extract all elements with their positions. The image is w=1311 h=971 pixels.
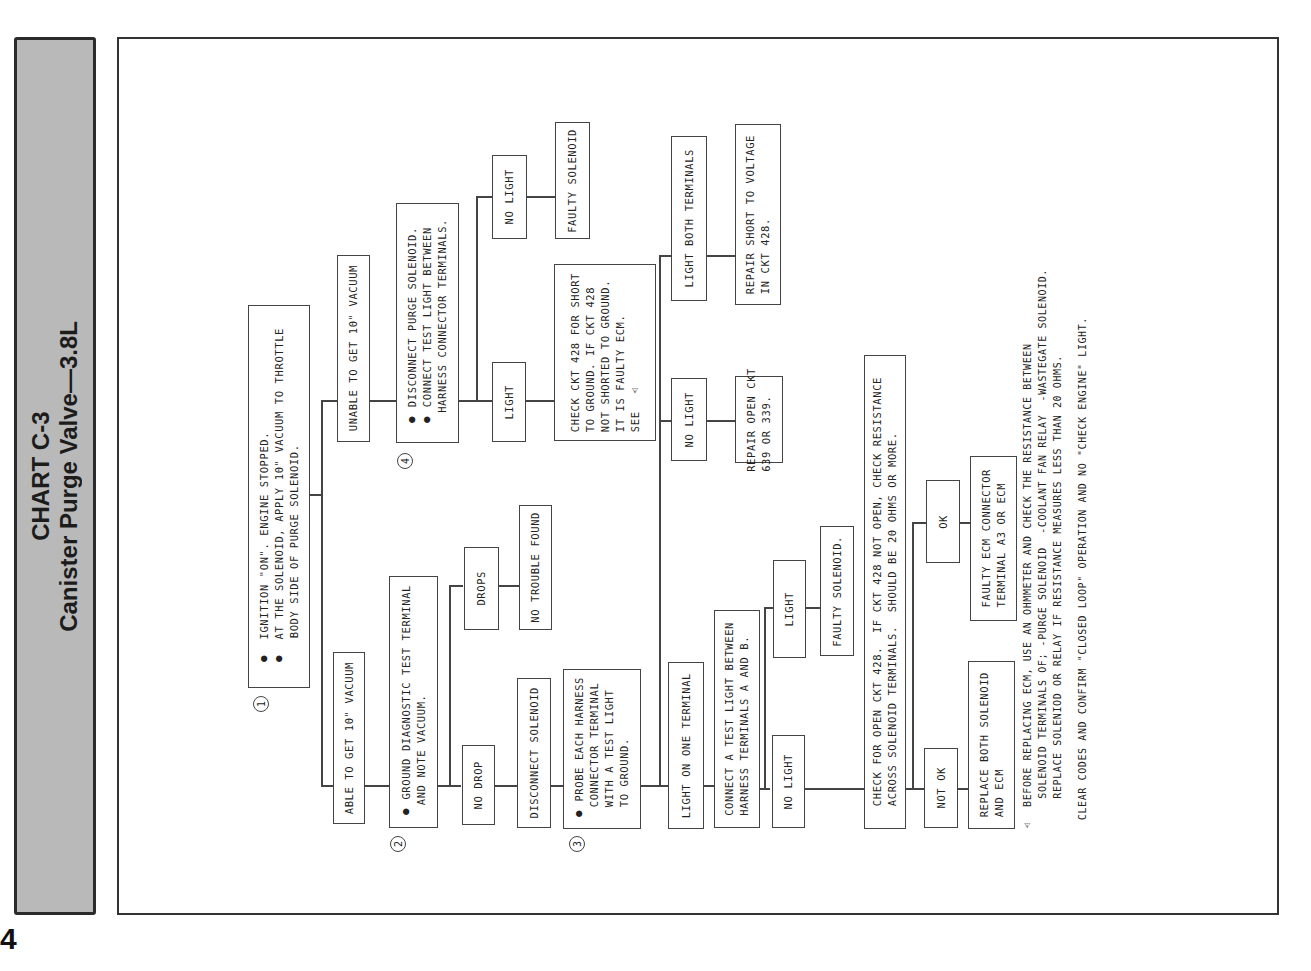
connector: [526, 400, 554, 402]
connector: [707, 420, 735, 422]
light-one-terminal-box: LIGHT ON ONE TERMINAL: [668, 662, 704, 829]
connector: [321, 400, 337, 402]
step-number-3: 3: [569, 836, 585, 852]
connector: [805, 788, 865, 790]
connector: [321, 400, 323, 785]
chart-title-panel: CHART C-3 Canister Purge Valve—3.8L: [14, 37, 96, 915]
connector: [449, 785, 461, 787]
connector: [958, 788, 968, 790]
connector: [659, 255, 671, 257]
connector: [551, 785, 563, 787]
connector: [476, 400, 492, 402]
warning-note: ⚠ BEFORE REPLACING ECM, USE AN OHMMETER …: [1020, 190, 1070, 832]
connector: [527, 196, 555, 198]
connector: [704, 785, 714, 787]
faulty-ecm-box: FAULTY ECM CONNECTOR TERMINAL A3 OR ECM: [970, 456, 1017, 621]
step-1-text: ● IGNITION "ON". ENGINE STOPPED. ● AT TH…: [257, 328, 302, 666]
step-4-box: ● DISCONNECT PURGE SOLENOID. ● CONNECT T…: [396, 203, 459, 443]
unable-vacuum-box: UNABLE TO GET 10" VACUUM: [337, 255, 370, 442]
connector: [912, 522, 914, 788]
no-trouble-found-box: NO TROUBLE FOUND: [519, 505, 552, 630]
no-light-ab-box: NO LIGHT: [772, 735, 805, 828]
connector: [495, 785, 517, 787]
check-open-ckt-box: CHECK FOR OPEN CKT 428. IF CKT 428 NOT O…: [864, 355, 906, 829]
not-ok-box: NOT OK: [924, 748, 958, 828]
repair-short-voltage-box: REPAIR SHORT TO VOLTAGE IN CKT 428.: [735, 124, 781, 305]
chart-id: CHART C-3: [27, 321, 55, 632]
connect-a-b-box: CONNECT A TEST LIGHT BETWEEN HARNESS TER…: [714, 610, 760, 828]
connector: [659, 255, 661, 785]
able-vacuum-box: ABLE TO GET 10" VACUUM: [333, 652, 365, 824]
clear-codes-note: CLEAR CODES AND CONFIRM "CLOSED LOOP" OP…: [1075, 220, 1095, 820]
connector: [906, 788, 924, 790]
connector: [912, 522, 926, 524]
faulty-solenoid-s4-box: FAULTY SOLENOID: [555, 122, 590, 239]
connector: [707, 255, 735, 257]
step-number-1: 1: [253, 696, 269, 712]
ok-box: OK: [926, 480, 960, 563]
step-number-2: 2: [390, 836, 406, 852]
connector: [659, 785, 668, 787]
connector: [449, 585, 451, 785]
step-number-4: 4: [397, 453, 413, 469]
replace-both-box: REPLACE BOTH SOLENOID AND ECM: [968, 661, 1015, 829]
connector: [476, 196, 492, 198]
light-s4-box: LIGHT: [492, 362, 526, 442]
page-number: 4: [0, 922, 17, 956]
connector: [806, 607, 820, 609]
check-ckt-short-box: CHECK CKT 428 FOR SHORT TO GROUND. IF CK…: [554, 264, 656, 441]
light-both-terminals-box: LIGHT BOTH TERMINALS: [671, 136, 707, 301]
connector: [476, 196, 478, 400]
connector: [370, 400, 396, 402]
connector: [459, 400, 477, 402]
connector: [760, 788, 770, 790]
step-2-box: ● GROUND DIAGNOSTIC TEST TERMINAL AND NO…: [389, 576, 438, 828]
step-1-box: ● IGNITION "ON". ENGINE STOPPED. ● AT TH…: [248, 305, 310, 688]
no-light-s4-box: NO LIGHT: [492, 155, 527, 239]
chart-title: Canister Purge Valve—3.8L: [55, 321, 83, 632]
connector: [499, 585, 519, 587]
repair-open-box: REPAIR OPEN CKT 639 OR 339.: [735, 376, 783, 463]
disconnect-solenoid-box: DISCONNECT SOLENOID: [517, 678, 551, 828]
connector: [764, 607, 766, 788]
light-ab-box: LIGHT: [773, 560, 806, 658]
connector: [321, 785, 333, 787]
connector: [449, 585, 463, 587]
connector: [365, 785, 389, 787]
no-drop-box: NO DROP: [462, 745, 495, 825]
no-light-probe-box: NO LIGHT: [671, 378, 707, 461]
connector: [960, 522, 970, 524]
faulty-solenoid-ab-box: FAULTY SOLENOID.: [820, 526, 854, 656]
connector: [659, 420, 671, 422]
drops-box: DROPS: [464, 547, 499, 630]
step-3-box: ● PROBE EACH HARNESS CONNECTOR TERMINAL …: [563, 669, 641, 829]
connector: [641, 785, 660, 787]
